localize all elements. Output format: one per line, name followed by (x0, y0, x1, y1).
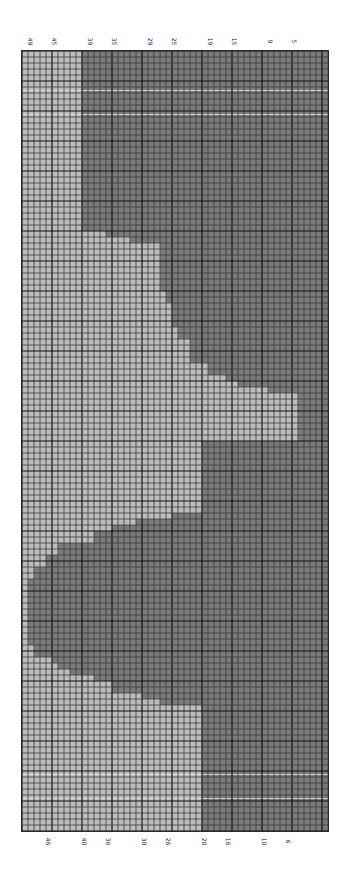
row-highlight-line (22, 798, 328, 799)
stitch-number-label: 36 (105, 835, 112, 849)
row-highlight-line (22, 774, 328, 775)
knitting-chart-grid (21, 50, 329, 832)
contrast-color-block (112, 681, 328, 693)
contrast-color-block (178, 327, 328, 339)
stitch-number-label: 9 (267, 35, 274, 49)
contrast-color-block (82, 51, 328, 231)
contrast-color-block (202, 705, 328, 831)
contrast-color-block (166, 291, 328, 303)
stitch-number-label: 25 (171, 35, 178, 49)
stitch-number-label: 39 (87, 35, 94, 49)
contrast-color-block (160, 243, 328, 291)
chart-cells (22, 51, 328, 831)
stitch-number-label: 40 (81, 835, 88, 849)
stitch-number-label: 49 (27, 35, 34, 49)
stitch-number-label: 20 (201, 835, 208, 849)
contrast-color-block (190, 339, 328, 363)
contrast-color-block (34, 645, 328, 657)
stitch-number-label: 6 (285, 835, 292, 849)
stitch-number-label: 26 (165, 835, 172, 849)
stitch-number-label: 45 (51, 35, 58, 49)
row-highlight-line (22, 114, 328, 115)
contrast-color-block (208, 363, 328, 375)
contrast-color-block (46, 555, 328, 567)
stitch-number-label: 29 (147, 35, 154, 49)
contrast-color-block (34, 567, 328, 579)
contrast-color-block (298, 393, 328, 441)
contrast-color-block (172, 303, 328, 327)
contrast-color-block (58, 543, 328, 555)
contrast-color-block (202, 441, 328, 513)
stitch-number-label: 16 (225, 835, 232, 849)
stitch-number-label: 46 (45, 835, 52, 849)
stitch-number-label: 35 (111, 35, 118, 49)
stitch-number-label: 19 (207, 35, 214, 49)
contrast-color-block (28, 579, 328, 645)
contrast-color-block (94, 531, 328, 543)
row-highlight-line (22, 90, 328, 91)
stitch-number-label: 5 (291, 35, 298, 49)
stitch-number-label: 30 (141, 835, 148, 849)
stitch-number-label: 15 (231, 35, 238, 49)
stitch-number-label: 10 (261, 835, 268, 849)
